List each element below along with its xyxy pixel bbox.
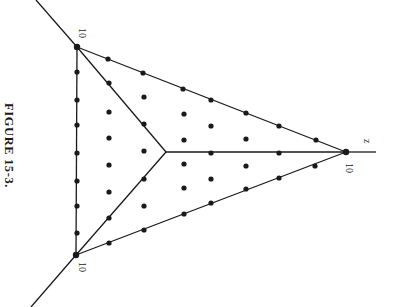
edge-point (74, 178, 79, 183)
interior-point (141, 148, 146, 153)
axis-extensions (31, 0, 376, 307)
branch-upper (77, 47, 166, 152)
interior-point (106, 189, 111, 194)
interior-point (181, 185, 186, 190)
branch-point (141, 176, 146, 181)
edge-point (74, 122, 79, 127)
interior-point (106, 162, 111, 167)
edge-point (74, 97, 79, 102)
edge-point (208, 97, 213, 102)
edge-point (312, 163, 317, 168)
edge-point (313, 137, 318, 142)
interior-point (208, 123, 213, 128)
branch-point (141, 121, 146, 126)
interior-point (243, 163, 248, 168)
edge-point (74, 203, 79, 208)
edge-point (74, 150, 79, 155)
edge-point (105, 56, 110, 61)
branch-point (276, 150, 281, 155)
edge-point (74, 69, 79, 74)
ternary-lattice-diagram (0, 0, 394, 307)
interior-point (243, 136, 248, 141)
edge-point (181, 211, 186, 216)
interior-point (141, 94, 146, 99)
vertex-point (74, 44, 80, 50)
edge-point (243, 186, 248, 191)
interior-point (181, 137, 186, 142)
interior-point (106, 109, 111, 114)
edge-point (276, 123, 281, 128)
edge-point (141, 227, 146, 232)
edge-point (208, 200, 213, 205)
lattice-points (73, 44, 349, 258)
edge-point (106, 240, 111, 245)
branch-point (106, 80, 111, 85)
edge-point (74, 230, 79, 235)
vertex-point (73, 252, 79, 258)
edge-point (276, 175, 281, 180)
caption-text: FIGURE 15-3. (1, 103, 16, 188)
axis-line (36, 0, 77, 47)
edge-point (140, 70, 145, 75)
vertex-point (343, 149, 349, 155)
branch-lower (76, 152, 166, 255)
axis-line (31, 255, 76, 307)
branch-point (208, 150, 213, 155)
interior-point (181, 111, 186, 116)
branch-point (106, 215, 111, 220)
interior-point (141, 203, 146, 208)
edge-point (243, 110, 248, 115)
edge-point (180, 86, 185, 91)
interior-point (106, 135, 111, 140)
interior-point (181, 161, 186, 166)
interior-point (208, 176, 213, 181)
